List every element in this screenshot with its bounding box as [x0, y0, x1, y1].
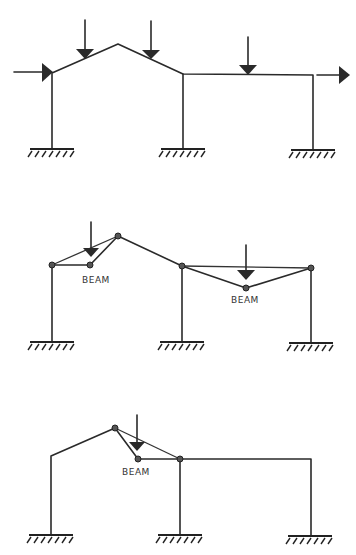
beam-label: BEAM	[122, 467, 150, 477]
fixed-support-left	[28, 149, 74, 157]
vertical-load-1-arrow-icon	[76, 20, 94, 59]
combined-beam-mechanism-diagram: BEAM BEAM	[28, 222, 333, 351]
single-beam-mechanism-diagram: BEAM	[27, 415, 332, 544]
plastic-hinge	[308, 265, 314, 271]
fixed-support-right	[289, 150, 335, 158]
plastic-hinge	[49, 262, 55, 268]
vertical-load-3-arrow-icon	[239, 37, 257, 75]
plastic-hinge	[135, 456, 141, 462]
plastic-hinge	[87, 262, 93, 268]
vertical-load-2-arrow-icon	[142, 21, 160, 59]
beam-load-arrow-icon	[129, 415, 145, 451]
beam-label-left: BEAM	[82, 275, 110, 285]
plastic-hinge	[177, 456, 183, 462]
plastic-hinge	[112, 425, 118, 431]
beam-load-left-arrow-icon	[83, 222, 99, 257]
structural-diagrams: BEAM BEAM BEAM	[0, 0, 356, 555]
plastic-hinge	[115, 233, 121, 239]
frame-loaded-diagram	[14, 20, 350, 158]
plastic-hinge	[179, 263, 185, 269]
fixed-support-middle	[159, 149, 205, 157]
plastic-hinge	[243, 285, 249, 291]
horizontal-load-right-arrow-icon	[317, 66, 350, 84]
horizontal-load-left-arrow-icon	[14, 63, 53, 82]
beam-label-right: BEAM	[231, 295, 259, 305]
beam-load-right-arrow-icon	[237, 245, 255, 280]
